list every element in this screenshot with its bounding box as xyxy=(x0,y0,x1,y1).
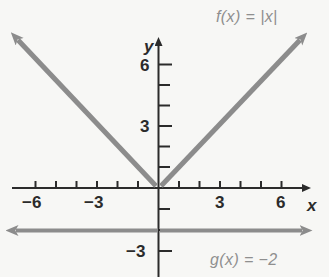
y-axis-label: y xyxy=(144,38,153,55)
x-tick-label-3: 3 xyxy=(215,194,224,211)
absolute-value-graph-figure: −6 −3 3 6 6 3 −3 x y f(x) = |x| g(x) = −… xyxy=(0,0,329,277)
y-tick-label-minus-3: −3 xyxy=(126,243,145,260)
function-label-g: g(x) = −2 xyxy=(210,252,278,268)
function-label-f: f(x) = |x| xyxy=(216,9,278,25)
curve-f-right-branch xyxy=(161,40,300,186)
x-tick-label-6: 6 xyxy=(276,194,285,211)
y-tick-label-3: 3 xyxy=(140,118,149,135)
x-tick-label-minus-3: −3 xyxy=(84,194,103,211)
curve-f-left-branch xyxy=(18,40,156,186)
y-axis-ticks xyxy=(159,65,172,252)
x-tick-label-minus-6: −6 xyxy=(22,194,41,211)
x-axis-label: x xyxy=(307,197,316,214)
graph-canvas xyxy=(0,0,329,277)
y-tick-label-6: 6 xyxy=(140,57,149,74)
